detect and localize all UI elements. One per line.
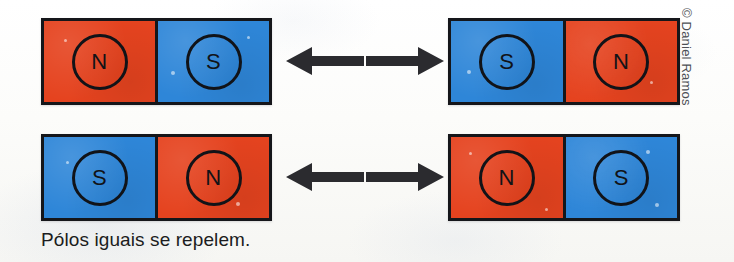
pole-south: S bbox=[451, 21, 563, 102]
north-pole-badge: N bbox=[593, 34, 649, 90]
pole-north: N bbox=[563, 21, 678, 102]
pole-label: N bbox=[499, 167, 515, 189]
pole-label: S bbox=[499, 51, 514, 73]
pole-label: S bbox=[614, 167, 629, 189]
pole-label: N bbox=[613, 51, 629, 73]
magnet-bottom-right: N S bbox=[448, 134, 680, 221]
pole-south: S bbox=[563, 137, 678, 218]
magnet-top-left: N S bbox=[41, 18, 272, 105]
north-pole-badge: N bbox=[72, 34, 128, 90]
pole-north: N bbox=[155, 137, 269, 218]
pole-label: N bbox=[91, 51, 107, 73]
magnet-bottom-left: S N bbox=[41, 134, 272, 221]
arrow-left-icon bbox=[286, 160, 364, 194]
north-pole-badge: N bbox=[479, 150, 535, 206]
arrow-right-icon bbox=[366, 160, 444, 194]
south-pole-badge: S bbox=[186, 34, 242, 90]
pole-south: S bbox=[155, 21, 269, 102]
arrow-right-icon bbox=[366, 44, 444, 78]
figure-caption: Pólos iguais se repelem. bbox=[41, 229, 250, 251]
south-pole-badge: S bbox=[593, 150, 649, 206]
north-pole-badge: N bbox=[186, 150, 242, 206]
pole-label: S bbox=[92, 167, 107, 189]
pole-label: S bbox=[206, 51, 221, 73]
south-pole-badge: S bbox=[72, 150, 128, 206]
figure-credit: © Daniel Ramos bbox=[679, 8, 694, 128]
arrow-left-icon bbox=[286, 44, 364, 78]
pole-south: S bbox=[44, 137, 155, 218]
magnet-top-right: S N bbox=[448, 18, 680, 105]
pole-north: N bbox=[44, 21, 155, 102]
pole-label: N bbox=[205, 167, 221, 189]
magnet-repulsion-figure: N S S N bbox=[0, 0, 734, 262]
pole-north: N bbox=[451, 137, 563, 218]
south-pole-badge: S bbox=[479, 34, 535, 90]
